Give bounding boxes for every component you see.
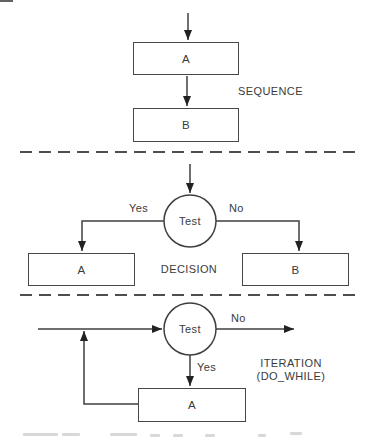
decision-no-label: No [229, 202, 244, 215]
decision-yes-label: Yes [129, 202, 148, 215]
decision-box-a-label: A [77, 264, 85, 276]
iteration-test-label: Test [179, 323, 201, 336]
iteration-box-a-label: A [188, 399, 196, 411]
decision-test-label: Test [179, 215, 201, 228]
sequence-box-b: B [133, 108, 239, 142]
sequence-box-b-label: B [182, 119, 190, 131]
iteration-loopback-arrow [84, 331, 138, 404]
iteration-no-label: No [231, 312, 246, 325]
iteration-caption-line1: ITERATION [260, 357, 321, 370]
sequence-box-a-label: A [182, 53, 190, 65]
flowchart-figure: A B SEQUENCE Test Yes No A B DECISION Te… [0, 0, 376, 440]
sequence-box-a: A [133, 42, 239, 75]
scan-artifact-topleft [0, 0, 13, 2]
decision-box-b-label: B [291, 264, 299, 276]
sequence-caption: SEQUENCE [238, 85, 303, 98]
iteration-yes-label: Yes [197, 361, 216, 374]
iteration-box-a: A [138, 388, 246, 422]
decision-yes-arrow [82, 221, 164, 251]
decision-no-arrow [216, 221, 299, 251]
iteration-caption-line2: (DO_WHILE) [257, 370, 326, 383]
decision-caption: DECISION [161, 263, 217, 276]
decision-box-b: B [242, 253, 349, 286]
decision-box-a: A [28, 253, 135, 286]
